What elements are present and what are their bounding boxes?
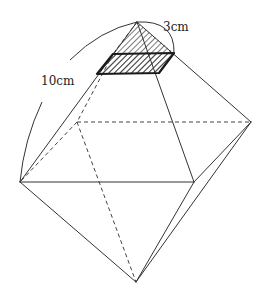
- label-3cm: 3cm: [163, 20, 189, 34]
- edge-frontright-bottom: [136, 182, 194, 282]
- edge-frontleft-bottom: [20, 182, 136, 282]
- hatched-cross-section: [97, 53, 174, 74]
- hidden-edge-backleft-frontleft: [20, 122, 77, 182]
- hidden-edge-backleft-bottom: [77, 122, 136, 282]
- octahedron-diagram: 10cm 3cm: [0, 0, 265, 304]
- edge-backright-bottom: [136, 122, 251, 282]
- edge-top-frontleft: [20, 22, 137, 182]
- label-10cm: 10cm: [41, 74, 75, 88]
- edge-frontright-backright: [194, 122, 251, 182]
